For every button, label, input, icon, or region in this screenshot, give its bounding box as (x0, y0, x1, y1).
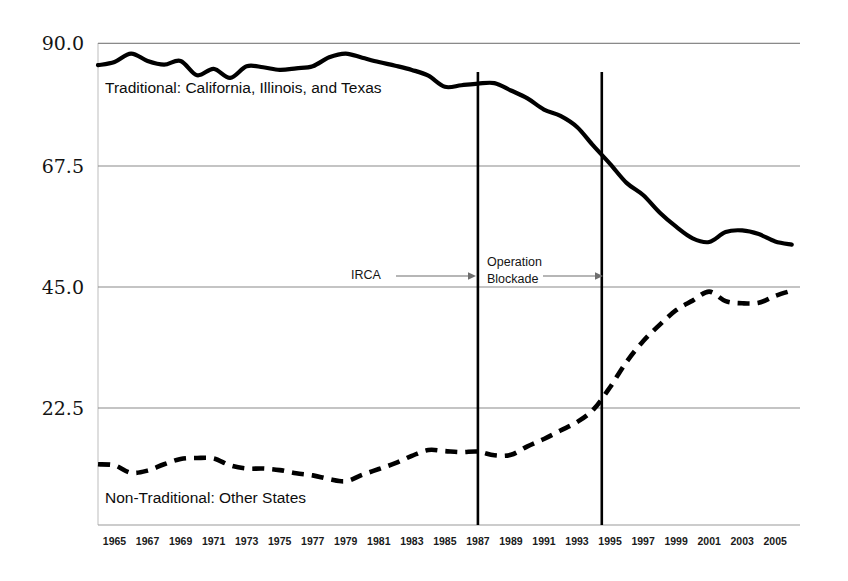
x-tick-label: 1993 (565, 535, 589, 547)
annotation-irca-label: IRCA (351, 268, 382, 282)
x-tick-label: 1965 (103, 535, 127, 547)
x-axis-tick-labels: 1965196719691971197319751977197919811983… (103, 535, 787, 547)
chart-canvas: 90.0 67.5 45.0 22.5 19651967196919711973… (0, 0, 848, 581)
x-tick-label: 2005 (764, 535, 788, 547)
x-tick-label: 1997 (631, 535, 655, 547)
x-tick-label: 1995 (598, 535, 622, 547)
x-tick-label: 1981 (367, 535, 391, 547)
x-tick-label: 1989 (499, 535, 523, 547)
x-tick-label: 1985 (433, 535, 457, 547)
x-tick-label: 1969 (169, 535, 193, 547)
x-tick-label: 2003 (731, 535, 755, 547)
x-tick-label: 2001 (697, 535, 721, 547)
x-tick-label: 1979 (334, 535, 358, 547)
series-label-non-traditional: Non-Traditional: Other States (105, 489, 306, 506)
x-tick-label: 1987 (466, 535, 490, 547)
x-tick-label: 1975 (268, 535, 292, 547)
x-tick-label: 1983 (400, 535, 424, 547)
y-tick-label: 67.5 (42, 155, 84, 177)
y-tick-label: 90.0 (42, 32, 84, 54)
x-tick-label: 1973 (235, 535, 259, 547)
x-tick-label: 1971 (202, 535, 226, 547)
x-tick-label: 1967 (136, 535, 160, 547)
x-tick-label: 1991 (532, 535, 556, 547)
annotation-operation-blockade-label-line2: Blockade (487, 272, 538, 286)
x-tick-label: 1977 (301, 535, 325, 547)
y-tick-label: 45.0 (42, 276, 84, 298)
x-tick-label: 1999 (664, 535, 688, 547)
series-label-traditional: Traditional: California, Illinois, and T… (105, 79, 382, 96)
y-tick-label: 22.5 (42, 397, 84, 419)
annotation-operation-blockade-label-line1: Operation (487, 255, 542, 269)
